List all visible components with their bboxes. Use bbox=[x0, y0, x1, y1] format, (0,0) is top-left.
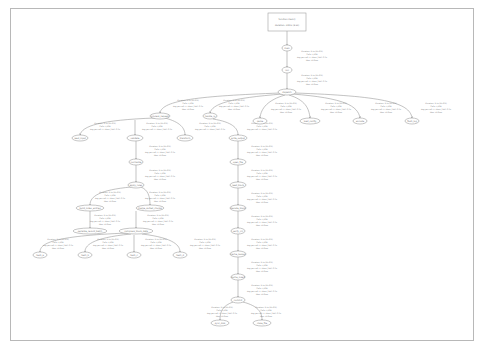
svg-text:serialize_record_batch: serialize_record_batch bbox=[78, 230, 103, 233]
svg-text:function main(): function main() bbox=[279, 18, 296, 21]
graph-node[interactable]: decode_block bbox=[230, 205, 246, 211]
graph-node[interactable]: merge_sorted_chunks bbox=[136, 205, 164, 211]
svg-text:Max: 12.6ms: Max: 12.6ms bbox=[430, 111, 442, 114]
call-graph: Duration: 2.1s (25.6%) Calls: 1,204 Avg … bbox=[0, 0, 482, 347]
svg-text:dispatch: dispatch bbox=[282, 91, 292, 94]
svg-text:run: run bbox=[285, 69, 289, 72]
svg-text:Max: 12.6ms: Max: 12.6ms bbox=[154, 200, 166, 203]
graph-node[interactable]: hash_c bbox=[127, 252, 141, 258]
svg-text:read_input: read_input bbox=[74, 137, 86, 140]
svg-text:handle_io: handle_io bbox=[205, 115, 216, 118]
graph-node[interactable]: validate bbox=[127, 135, 143, 141]
graph-node[interactable]: hash_d bbox=[173, 252, 187, 258]
graph-nodes: main run dispatch process_request handle… bbox=[33, 45, 419, 326]
graph-node[interactable]: encode bbox=[353, 118, 367, 124]
svg-text:merge_sorted_chunks: merge_sorted_chunks bbox=[138, 207, 163, 210]
svg-text:Max: 12.6ms: Max: 12.6ms bbox=[256, 224, 268, 227]
svg-text:Duration: 100% (8.2s): Duration: 100% (8.2s) bbox=[275, 24, 299, 27]
svg-text:hash_c: hash_c bbox=[130, 254, 138, 257]
svg-text:compress_block_data: compress_block_data bbox=[124, 230, 148, 233]
graph-node[interactable]: cache_lookup bbox=[230, 251, 246, 257]
svg-text:hash_d: hash_d bbox=[176, 254, 184, 257]
graph-node[interactable]: build_index_entries bbox=[76, 205, 104, 211]
svg-text:Max: 12.6ms: Max: 12.6ms bbox=[256, 293, 268, 296]
graph-node[interactable]: handle_io bbox=[203, 113, 217, 119]
svg-text:Max: 12.6ms: Max: 12.6ms bbox=[256, 247, 268, 250]
graph-node[interactable]: open_file bbox=[230, 159, 246, 165]
graph-node[interactable]: commit bbox=[231, 297, 245, 303]
svg-text:Max: 12.6ms: Max: 12.6ms bbox=[380, 111, 392, 114]
svg-text:cache_lookup: cache_lookup bbox=[231, 253, 246, 256]
svg-text:Max: 12.6ms: Max: 12.6ms bbox=[154, 178, 166, 181]
svg-text:build_index_entries: build_index_entries bbox=[79, 207, 101, 210]
svg-text:Max: 12.6ms: Max: 12.6ms bbox=[256, 201, 268, 204]
svg-text:hash_b: hash_b bbox=[81, 254, 89, 257]
svg-text:Max: 12.6ms: Max: 12.6ms bbox=[330, 111, 342, 114]
svg-text:Max: 12.6ms: Max: 12.6ms bbox=[154, 154, 166, 157]
svg-text:Max: 12.6ms: Max: 12.6ms bbox=[256, 178, 268, 181]
svg-text:transform: transform bbox=[180, 137, 191, 140]
graph-node[interactable]: normalize bbox=[129, 159, 143, 165]
graph-node[interactable]: hash_a bbox=[33, 252, 47, 258]
svg-text:Max: 12.6ms: Max: 12.6ms bbox=[150, 247, 162, 250]
svg-text:validate: validate bbox=[131, 137, 140, 140]
svg-text:flush_log: flush_log bbox=[407, 120, 417, 123]
svg-text:process_request: process_request bbox=[151, 115, 169, 118]
svg-text:main: main bbox=[284, 47, 290, 50]
svg-text:Max: 12.6ms: Max: 12.6ms bbox=[306, 83, 318, 86]
edges bbox=[40, 31, 412, 320]
graph-node[interactable]: compress_block_data bbox=[119, 228, 153, 234]
graph-node[interactable]: parse bbox=[253, 118, 267, 124]
graph-node[interactable]: verify_crc bbox=[231, 228, 245, 234]
svg-text:Max: 12.6ms: Max: 12.6ms bbox=[280, 111, 292, 114]
graph-node[interactable]: sync_disk bbox=[211, 320, 229, 326]
root-node[interactable]: function main() Duration: 100% (8.2s) bbox=[268, 13, 306, 31]
svg-text:Max: 12.6ms: Max: 12.6ms bbox=[256, 154, 268, 157]
svg-text:verify_crc: verify_crc bbox=[233, 230, 244, 233]
svg-text:Max: 12.6ms: Max: 12.6ms bbox=[152, 223, 164, 226]
graph-node[interactable]: cache_insert bbox=[231, 274, 245, 280]
svg-text:Max: 12.6ms: Max: 12.6ms bbox=[306, 59, 318, 62]
svg-text:Max: 12.6ms: Max: 12.6ms bbox=[182, 108, 194, 111]
svg-text:Avg per call: 1.74ms | Self: 0: Avg per call: 1.74ms | Self: 0.3s bbox=[90, 128, 120, 131]
svg-text:open_file: open_file bbox=[233, 161, 244, 164]
svg-text:sync_disk: sync_disk bbox=[215, 322, 226, 325]
svg-text:Max: 12.6ms: Max: 12.6ms bbox=[228, 108, 240, 111]
svg-text:decode_block: decode_block bbox=[231, 207, 247, 210]
svg-text:Max: 12.6ms: Max: 12.6ms bbox=[102, 247, 114, 250]
graph-node[interactable]: apply_rules bbox=[128, 182, 144, 188]
graph-node[interactable]: read_input bbox=[72, 135, 88, 141]
graph-node[interactable]: read_block bbox=[230, 182, 246, 188]
graph-node[interactable]: serialize_record_batch bbox=[73, 228, 107, 234]
svg-text:Max: 12.6ms: Max: 12.6ms bbox=[199, 247, 211, 250]
svg-text:commit: commit bbox=[234, 299, 242, 302]
svg-text:Max: 12.6ms: Max: 12.6ms bbox=[104, 200, 116, 203]
graph-node[interactable]: run bbox=[282, 67, 292, 73]
graph-node[interactable]: flush_log bbox=[405, 118, 419, 124]
svg-text:load_config: load_config bbox=[304, 120, 317, 123]
svg-text:Max: 12.6ms: Max: 12.6ms bbox=[216, 315, 228, 318]
svg-text:normalize: normalize bbox=[131, 161, 142, 164]
svg-text:close_file: close_file bbox=[257, 322, 268, 325]
svg-text:cache_insert: cache_insert bbox=[231, 276, 245, 279]
graph-node[interactable]: dispatch bbox=[278, 89, 296, 95]
graph-node[interactable]: transform bbox=[177, 135, 193, 141]
svg-text:Avg per call: 1.74ms | Self: 0: Avg per call: 1.74ms | Self: 0.3s bbox=[247, 128, 277, 131]
svg-text:Avg per call: 1.74ms | Self: 0: Avg per call: 1.74ms | Self: 0.3s bbox=[195, 128, 225, 131]
svg-text:Max: 12.6ms: Max: 12.6ms bbox=[256, 270, 268, 273]
graph-node[interactable]: load_config bbox=[300, 118, 320, 124]
svg-text:apply_rules: apply_rules bbox=[130, 184, 143, 187]
svg-text:encode: encode bbox=[356, 120, 365, 123]
graph-node[interactable]: close_file bbox=[253, 320, 271, 326]
graph-node[interactable]: process_request bbox=[150, 113, 170, 119]
graph-node[interactable]: main bbox=[282, 45, 292, 51]
svg-text:Max: 12.6ms: Max: 12.6ms bbox=[99, 223, 111, 226]
graph-node[interactable]: write_output bbox=[229, 135, 247, 141]
svg-text:Avg per call: 1.74ms | Self: 0: Avg per call: 1.74ms | Self: 0.3s bbox=[142, 128, 172, 131]
svg-text:write_output: write_output bbox=[231, 137, 245, 140]
graph-node[interactable]: hash_b bbox=[78, 252, 92, 258]
svg-text:read_block: read_block bbox=[232, 184, 245, 187]
svg-text:hash_a: hash_a bbox=[36, 254, 44, 257]
svg-text:parse: parse bbox=[257, 120, 264, 123]
svg-text:Max: 12.6ms: Max: 12.6ms bbox=[52, 247, 64, 250]
